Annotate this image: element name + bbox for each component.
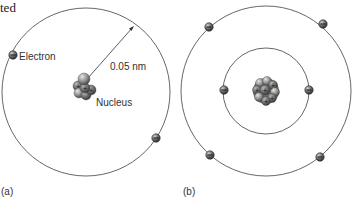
panel-a: + + + bbox=[2, 8, 170, 176]
svg-text:+: + bbox=[76, 83, 80, 90]
svg-text:+: + bbox=[255, 87, 259, 94]
electron-b-inner-2 bbox=[305, 86, 313, 94]
electron-b-outer-3 bbox=[206, 151, 214, 159]
nucleus-b: + + + + + bbox=[253, 77, 280, 106]
caption-a: (a) bbox=[1, 187, 13, 197]
electron-b-inner-1 bbox=[220, 86, 228, 94]
electron-b-outer-4 bbox=[316, 153, 324, 161]
svg-text:+: + bbox=[263, 87, 267, 94]
svg-text:+: + bbox=[83, 85, 87, 92]
atom-models-figure: ted bbox=[0, 0, 352, 199]
electron-label: Electron bbox=[19, 52, 56, 62]
diagram-canvas: + + + + + + bbox=[0, 0, 352, 199]
radius-label: 0.05 nm bbox=[110, 62, 146, 72]
svg-text:+: + bbox=[264, 98, 268, 105]
svg-text:+: + bbox=[271, 82, 275, 89]
electron-b-outer-1 bbox=[205, 23, 213, 31]
electron-a-1 bbox=[9, 51, 17, 59]
svg-text:+: + bbox=[270, 95, 274, 102]
caption-b: (b) bbox=[183, 187, 195, 197]
svg-text:+: + bbox=[89, 87, 93, 94]
electron-a-2 bbox=[152, 134, 160, 142]
electron-b-outer-2 bbox=[319, 20, 327, 28]
nucleus-label: Nucleus bbox=[96, 98, 132, 108]
nucleus-a: + + + bbox=[73, 73, 96, 100]
panel-b: + + + + + bbox=[181, 6, 351, 176]
